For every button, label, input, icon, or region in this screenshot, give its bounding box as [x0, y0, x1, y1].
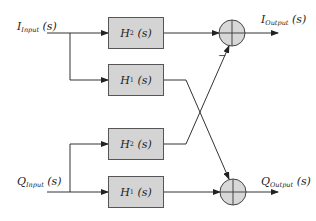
q-branch-wire: [70, 144, 108, 192]
block-h1-top: H1 (s): [108, 64, 164, 96]
sum-junction-top: [219, 20, 245, 46]
minus-sign: −: [218, 50, 226, 61]
i-branch-wire: [70, 33, 108, 80]
block-h2-top: H2 (s): [108, 17, 164, 49]
q-input-label: QInput (s): [17, 176, 61, 189]
block-h2-bottom: H2 (s): [108, 128, 164, 160]
block-h1-bottom: H1 (s): [108, 176, 164, 208]
q-output-label: QOutput (s): [261, 176, 311, 189]
sum-junction-bottom: [220, 179, 246, 205]
i-input-label: IInput (s): [17, 21, 57, 34]
i-output-label: IOutput (s): [261, 14, 306, 27]
diagram-canvas: IInput (s) QInput (s) IOutput (s) QOutpu…: [0, 0, 316, 221]
h1-top-cross-wire: [164, 80, 229, 179]
